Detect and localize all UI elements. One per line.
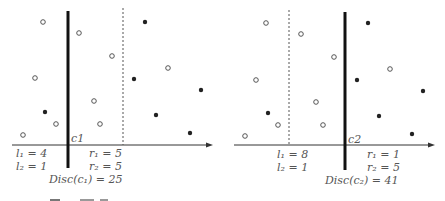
r2-count: r₂ = 5 [89, 160, 122, 173]
open-point [110, 54, 115, 59]
cut-label: c1 [71, 132, 84, 145]
l1-count: l₁ = 4 [16, 147, 47, 160]
filled-point [43, 110, 47, 114]
r1-count: r₁ = 1 [367, 148, 400, 161]
open-point [321, 123, 326, 128]
open-point [166, 66, 171, 71]
filled-point [377, 114, 381, 118]
open-point [276, 123, 281, 128]
filled-point [266, 111, 270, 115]
filled-point [410, 132, 414, 136]
l2-count: l₂ = 1 [16, 160, 47, 173]
r1-count: r₁ = 5 [89, 147, 122, 160]
filled-point [143, 20, 147, 24]
filled-point [355, 78, 359, 82]
disc-value: Disc(c₂) = 41 [324, 174, 399, 187]
open-point [77, 31, 82, 36]
panel-c2: c2 l₁ = 8 l₂ = 1 r₁ = 1 r₂ = 5 Disc(c₂) … [234, 10, 435, 187]
filled-point [188, 131, 192, 135]
open-point [243, 134, 248, 139]
discretization-figure: c1 l₁ = 4 l₂ = 1 r₁ = 5 r₂ = 5 Disc(c₁) … [0, 0, 445, 201]
open-point [98, 122, 103, 127]
open-point [21, 133, 26, 138]
l1-count: l₁ = 8 [277, 148, 308, 161]
points-c2 [243, 21, 425, 139]
open-point [254, 78, 259, 83]
cut-label: c2 [348, 133, 361, 146]
r2-count: r₂ = 5 [367, 161, 400, 174]
l2-count: l₂ = 1 [277, 161, 308, 174]
filled-point [199, 88, 203, 92]
open-point [54, 122, 59, 127]
caption-fragment [50, 199, 108, 201]
open-point [264, 21, 269, 26]
filled-point [154, 113, 158, 117]
open-point [92, 99, 97, 104]
open-point [41, 20, 46, 25]
open-point [314, 100, 319, 105]
panel-c1: c1 l₁ = 4 l₂ = 1 r₁ = 5 r₂ = 5 Disc(c₁) … [12, 8, 213, 186]
open-point [299, 32, 304, 37]
filled-point [366, 21, 370, 25]
open-point [33, 76, 38, 81]
open-point [332, 55, 337, 60]
axis-arrow-icon [428, 143, 435, 148]
open-point [388, 67, 393, 72]
filled-point [132, 77, 136, 81]
axis-arrow-icon [206, 143, 213, 148]
filled-point [421, 89, 425, 93]
disc-value: Disc(c₁) = 25 [48, 173, 123, 186]
points-c1 [21, 20, 204, 138]
